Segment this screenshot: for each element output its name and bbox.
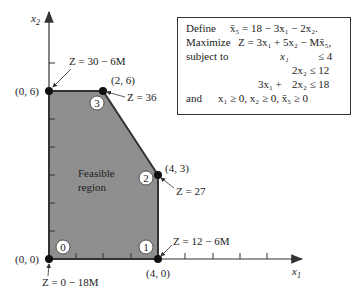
- x-axis-label: x1: [291, 265, 301, 280]
- constraint-2-expr: 2x₂ ≤ 12: [292, 63, 329, 77]
- define-expression: x̄₅ = 18 − 3x₁ − 2x₂.: [230, 21, 318, 35]
- constraint-1-rhs: ≤ 4: [318, 49, 332, 63]
- define-keyword: Define: [186, 21, 216, 35]
- svg-text:2: 2: [143, 172, 149, 184]
- objective-line: Maximize Z = 3x₁ + 5x₂ − Mx̄₅,: [186, 35, 344, 49]
- svg-text:0: 0: [60, 241, 66, 253]
- constraint-3-lhs: 3x₁ +: [258, 77, 282, 91]
- coord-label-0-6: (0, 6): [15, 85, 39, 98]
- subject-to-keyword: subject to: [186, 49, 228, 63]
- z-label-4-0: Z = 12 − 6M: [173, 235, 230, 247]
- z-pointer-4-3: [161, 178, 174, 188]
- z-pointer-0-0: [48, 264, 49, 276]
- feasible-region-label: Feasible: [78, 167, 115, 179]
- feasible-region-label-2: region: [78, 181, 107, 193]
- y-axis-label: x2: [30, 12, 40, 27]
- constraint-2: 2x₂ ≤ 12: [186, 63, 344, 77]
- svg-text:3: 3: [94, 97, 100, 109]
- objective-expression: Z = 3x₁ + 5x₂ − Mx̄₅,: [238, 35, 331, 49]
- coord-label-4-3: (4, 3): [165, 162, 189, 175]
- z-label-0-0: Z = 0 − 18M: [42, 276, 99, 288]
- constraint-1: subject to x₁ ≤ 4: [186, 49, 344, 63]
- model-formulation-box: Define x̄₅ = 18 − 3x₁ − 2x₂. Maximize Z …: [177, 17, 351, 115]
- define-line: Define x̄₅ = 18 − 3x₁ − 2x₂.: [186, 21, 344, 35]
- z-label-0-6: Z = 30 − 6M: [69, 55, 126, 67]
- z-pointer-2-6: [107, 92, 125, 97]
- constraint-3: 3x₁ + 2x₂ ≤ 18: [186, 77, 344, 91]
- z-label-4-3: Z = 27: [176, 185, 206, 197]
- constraint-3-rhs: 2x₂ ≤ 18: [292, 77, 329, 91]
- svg-text:1: 1: [143, 241, 149, 253]
- z-label-2-6: Z = 36: [127, 91, 157, 103]
- nonnegativity-expr: x₁ ≥ 0, x₂ ≥ 0, x̄₅ ≥ 0: [218, 91, 308, 105]
- coord-label-2-6: (2, 6): [111, 74, 135, 87]
- coord-label-0-0: (0, 0): [15, 253, 39, 266]
- coord-label-4-0: (4, 0): [146, 267, 170, 280]
- nonnegativity-line: and x₁ ≥ 0, x₂ ≥ 0, x̄₅ ≥ 0: [186, 91, 344, 105]
- z-pointer-4-0: [161, 245, 172, 256]
- maximize-keyword: Maximize: [186, 35, 231, 49]
- constraint-1-lhs: x₁: [280, 49, 289, 63]
- z-pointer-0-6: [53, 69, 71, 87]
- and-keyword: and: [186, 91, 202, 105]
